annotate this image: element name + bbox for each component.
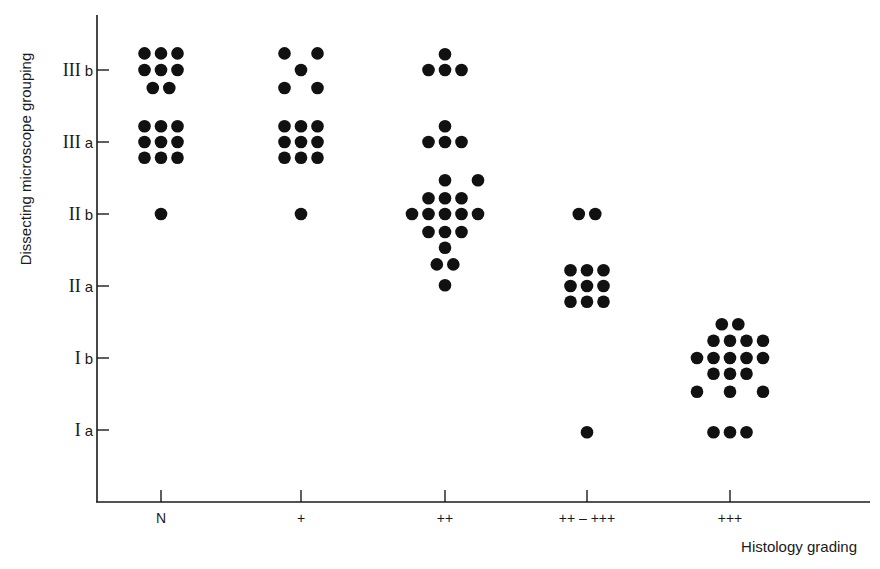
- data-point: [155, 152, 168, 165]
- data-point: [311, 47, 324, 60]
- data-point: [691, 352, 704, 365]
- data-point: [295, 64, 308, 77]
- data-point: [732, 318, 745, 331]
- data-point: [155, 64, 168, 77]
- data-point: [455, 136, 468, 149]
- data-point: [757, 386, 770, 399]
- data-point: [757, 334, 770, 347]
- data-point: [278, 120, 291, 133]
- data-point: [724, 352, 737, 365]
- data-point: [171, 136, 184, 149]
- data-point: [439, 242, 452, 255]
- data-point: [422, 226, 435, 239]
- axes: [96, 15, 870, 502]
- data-point: [155, 47, 168, 60]
- y-tick-suffix: b: [85, 206, 93, 223]
- y-tick-label: IIIa: [63, 132, 94, 152]
- data-point: [295, 152, 308, 165]
- data-point: [439, 208, 452, 221]
- y-tick-label: IIIb: [63, 60, 93, 80]
- data-point: [455, 208, 468, 221]
- data-point: [431, 258, 444, 271]
- data-point: [564, 264, 577, 277]
- data-point: [724, 386, 737, 399]
- data-point: [311, 82, 324, 95]
- x-ticks: N+++++ – ++++++: [156, 490, 742, 526]
- data-point: [581, 426, 594, 439]
- data-point: [138, 152, 151, 165]
- data-point: [439, 48, 452, 61]
- data-point: [406, 208, 419, 221]
- y-tick-suffix: b: [85, 62, 93, 79]
- y-tick-label: Ib: [75, 348, 93, 368]
- data-point: [138, 136, 151, 149]
- y-tick-label: IIb: [69, 204, 93, 224]
- data-point: [472, 174, 485, 187]
- data-point: [439, 136, 452, 149]
- data-point: [724, 426, 737, 439]
- y-tick-suffix: a: [85, 422, 94, 439]
- data-point: [724, 368, 737, 381]
- data-point: [455, 226, 468, 239]
- data-point: [422, 208, 435, 221]
- x-tick-label: N: [156, 510, 166, 526]
- y-tick-suffix: a: [85, 134, 94, 151]
- data-point: [724, 334, 737, 347]
- data-point: [707, 426, 720, 439]
- y-tick-suffix: a: [85, 278, 94, 295]
- data-point: [163, 82, 176, 95]
- data-point: [740, 426, 753, 439]
- data-point: [295, 120, 308, 133]
- data-point: [589, 208, 602, 221]
- data-point: [564, 280, 577, 293]
- data-point: [716, 318, 729, 331]
- data-point: [597, 280, 610, 293]
- data-point: [278, 82, 291, 95]
- y-tick-label: Ia: [75, 420, 94, 440]
- data-point: [581, 280, 594, 293]
- data-point: [138, 47, 151, 60]
- data-point: [171, 152, 184, 165]
- data-point: [138, 64, 151, 77]
- data-point: [422, 64, 435, 77]
- data-point: [171, 64, 184, 77]
- data-point: [439, 120, 452, 133]
- data-point: [147, 82, 160, 95]
- data-point: [455, 64, 468, 77]
- data-point: [691, 386, 704, 399]
- data-point: [455, 192, 468, 205]
- data-points: [138, 47, 769, 438]
- y-tick-roman: II: [69, 276, 81, 296]
- y-tick-label: IIa: [69, 276, 94, 296]
- y-tick-roman: III: [63, 60, 81, 80]
- data-point: [138, 120, 151, 133]
- data-point: [439, 279, 452, 292]
- data-point: [422, 192, 435, 205]
- data-point: [278, 136, 291, 149]
- dot-plot-chart: IaIbIIaIIbIIIaIIIb N+++++ – ++++++ Disse…: [0, 0, 880, 569]
- x-axis-title: Histology grading: [741, 538, 857, 555]
- data-point: [740, 334, 753, 347]
- data-point: [757, 352, 770, 365]
- data-point: [439, 64, 452, 77]
- data-point: [439, 192, 452, 205]
- data-point: [439, 174, 452, 187]
- data-point: [597, 296, 610, 309]
- data-point: [171, 120, 184, 133]
- data-point: [311, 136, 324, 149]
- data-point: [155, 136, 168, 149]
- data-point: [573, 208, 586, 221]
- y-tick-roman: III: [63, 132, 81, 152]
- data-point: [439, 226, 452, 239]
- data-point: [171, 47, 184, 60]
- y-tick-roman: I: [75, 348, 81, 368]
- data-point: [581, 264, 594, 277]
- data-point: [581, 296, 594, 309]
- data-point: [422, 136, 435, 149]
- data-point: [472, 208, 485, 221]
- data-point: [564, 296, 577, 309]
- data-point: [740, 368, 753, 381]
- data-point: [295, 208, 308, 221]
- data-point: [311, 152, 324, 165]
- data-point: [295, 136, 308, 149]
